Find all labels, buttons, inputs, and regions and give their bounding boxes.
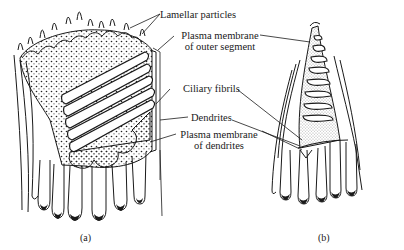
- label-plasma-outer-line1: Plasma membrane: [178, 30, 262, 41]
- panel-b-drawing: [272, 22, 362, 204]
- figure: Lamellar particles Plasma membrane of ou…: [0, 0, 404, 250]
- cone-outer-segment: [299, 26, 340, 148]
- label-plasma-outer-line2: of outer segment: [178, 41, 262, 52]
- label-plasma-membrane-outer-segment: Plasma membrane of outer segment: [178, 30, 262, 52]
- caption-b: (b): [318, 232, 330, 243]
- panel-a-drawing: [14, 12, 162, 221]
- label-plasma-membrane-dendrites: Plasma membrane of dendrites: [176, 129, 262, 151]
- label-lamellar-particles: Lamellar particles: [160, 9, 236, 20]
- label-plasma-dendrites-line2: of dendrites: [176, 140, 262, 151]
- label-dendrites: Dendrites: [191, 112, 232, 123]
- caption-a: (a): [80, 232, 91, 243]
- dendrite-fingers-b: [280, 140, 357, 204]
- label-plasma-dendrites-line1: Plasma membrane: [176, 129, 262, 140]
- label-ciliary-fibrils: Ciliary fibrils: [183, 83, 240, 94]
